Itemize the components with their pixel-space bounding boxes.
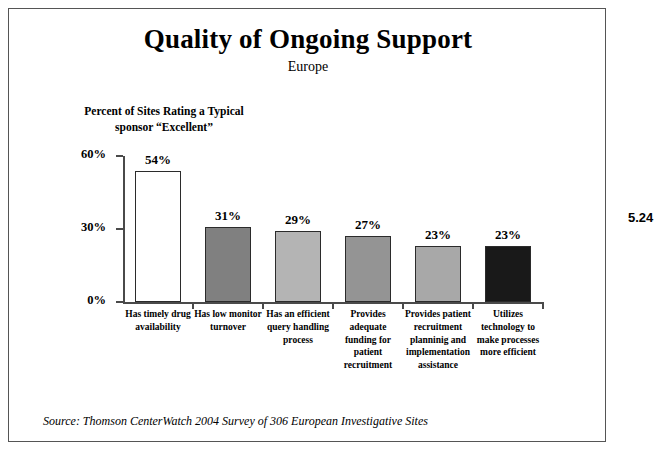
bar-value-label: 23% [495,227,521,243]
category-label-line: Has an efficient [263,308,333,321]
bar-value-label: 29% [285,212,311,228]
category-label: Has low monitorturnover [193,308,263,334]
bar: 23% [415,246,461,302]
bar-value-label: 27% [355,217,381,233]
category-label-line: process [263,334,333,347]
y-axis-tick-label: 60% [81,147,106,162]
category-label-line: Has low monitor [193,308,263,321]
category-label-line: Utilizes [473,308,543,321]
category-label-line: recruitment [403,321,473,334]
category-label-line: technology to [473,321,543,334]
figure-number: 5.24 [628,210,653,225]
category-label-line: turnover [193,321,263,334]
category-label-line: availability [123,321,193,334]
category-label-line: Provides [333,308,403,321]
category-label-line: make processes [473,334,543,347]
plot-area: 0%30%60% 54%31%29%27%23%23% [123,156,543,302]
y-axis-tick: 60% [116,155,123,157]
figure-frame: Quality of Ongoing Support Europe Percen… [8,8,606,442]
bar: 23% [485,246,531,302]
bar: 29% [275,231,321,302]
category-label-line: recruitment [333,359,403,372]
chart-subtitle: Europe [9,59,607,75]
bar-value-label: 23% [425,227,451,243]
category-label-line: Has timely drug [123,308,193,321]
y-axis-tick: 30% [116,228,123,230]
y-axis-caption: Percent of Sites Rating a Typical sponso… [55,104,273,136]
category-labels: Has timely drugavailabilityHas low monit… [123,308,543,388]
chart-title: Quality of Ongoing Support [9,25,607,55]
bar-value-label: 31% [215,208,241,224]
y-axis-tick-label: 0% [87,293,106,308]
bar: 54% [135,171,181,302]
category-label: Providesadequatefunding forpatientrecrui… [333,308,403,372]
category-label-line: Provides patient [403,308,473,321]
category-label-line: query handling [263,321,333,334]
category-label-line: patient [333,346,403,359]
bar: 31% [205,227,251,302]
category-label: Utilizestechnology tomake processesmore … [473,308,543,359]
category-label: Has an efficientquery handlingprocess [263,308,333,346]
y-axis-caption-line-1: Percent of Sites Rating a Typical [55,104,273,120]
category-label: Provides patientrecruitmentplanninig and… [403,308,473,372]
y-axis-tick: 0% [116,301,123,303]
category-label: Has timely drugavailability [123,308,193,334]
category-label-line: assistance [403,359,473,372]
bars-layer: 54%31%29%27%23%23% [123,156,543,302]
category-label-line: adequate [333,321,403,334]
category-label-line: planninig and [403,334,473,347]
bar: 27% [345,236,391,302]
category-label-line: more efficient [473,346,543,359]
category-label-line: funding for [333,334,403,347]
source-note: Source: Thomson CenterWatch 2004 Survey … [43,414,428,429]
y-axis-tick-label: 30% [81,220,106,235]
y-axis-caption-line-2: sponsor “Excellent” [55,120,273,136]
category-label-line: implementation [403,346,473,359]
bar-value-label: 54% [145,152,171,168]
